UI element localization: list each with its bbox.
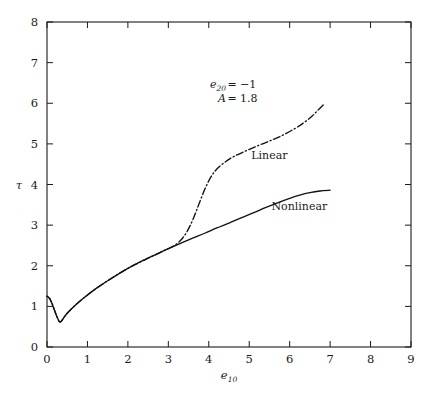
x-tick-label-4: 4 bbox=[205, 352, 212, 366]
chart-canvas: 0123456789012345678LinearNonlineare20=−1… bbox=[0, 0, 430, 399]
y-tick-label-6: 6 bbox=[31, 96, 38, 110]
x-axis-title: e10 bbox=[221, 368, 238, 384]
y-tick-label-2: 2 bbox=[31, 259, 38, 273]
y-tick-label-0: 0 bbox=[31, 340, 38, 354]
plot-frame bbox=[47, 22, 411, 347]
x-tick-label-5: 5 bbox=[246, 352, 253, 366]
param-e20-value: −1 bbox=[240, 78, 256, 91]
y-tick-label-8: 8 bbox=[31, 15, 38, 29]
x-tick-label-8: 8 bbox=[367, 352, 374, 366]
param-e20-symbol: e20 bbox=[210, 78, 226, 93]
x-tick-label-7: 7 bbox=[326, 352, 333, 366]
x-tick-label-9: 9 bbox=[407, 352, 414, 366]
y-tick-label-3: 3 bbox=[31, 218, 38, 232]
y-tick-label-7: 7 bbox=[31, 56, 38, 70]
curve-linear bbox=[47, 104, 324, 322]
label-linear: Linear bbox=[251, 149, 288, 162]
x-tick-label-1: 1 bbox=[84, 352, 91, 366]
param-A-value: 1.8 bbox=[240, 92, 258, 105]
label-nonlinear: Nonlinear bbox=[271, 200, 328, 213]
param-e20-equals: = bbox=[227, 78, 236, 91]
x-tick-label-2: 2 bbox=[124, 352, 131, 366]
figure-container: 0123456789012345678LinearNonlineare20=−1… bbox=[0, 0, 430, 399]
x-tick-label-3: 3 bbox=[165, 352, 172, 366]
y-tick-label-1: 1 bbox=[31, 299, 38, 313]
x-tick-label-0: 0 bbox=[43, 352, 50, 366]
param-A-equals: = bbox=[227, 92, 236, 105]
x-tick-label-6: 6 bbox=[286, 352, 293, 366]
y-tick-label-4: 4 bbox=[31, 178, 38, 192]
param-A-symbol: A bbox=[217, 92, 226, 105]
y-tick-label-5: 5 bbox=[31, 137, 38, 151]
y-axis-title: τ bbox=[16, 178, 23, 192]
